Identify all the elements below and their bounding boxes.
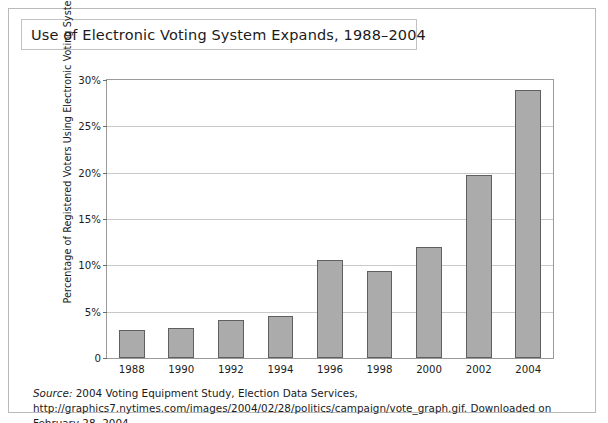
figure-frame: Use of Electronic Voting System Expands,…: [8, 8, 596, 413]
y-tick-label: 5%: [85, 306, 101, 317]
y-tick-mark: [103, 358, 107, 359]
bar-1992: [218, 320, 244, 358]
bar-2004: [515, 90, 541, 358]
source-label: Source:: [33, 387, 72, 399]
source-note: Source: 2004 Voting Equipment Study, Ele…: [33, 386, 589, 423]
gridline: [107, 126, 553, 127]
x-tick-label-1990: 1990: [168, 364, 194, 375]
bar-1996: [317, 260, 343, 358]
y-tick-label: 15%: [78, 214, 101, 225]
y-tick-label: 10%: [78, 260, 101, 271]
y-tick-label: 25%: [78, 121, 101, 132]
gridline: [107, 173, 553, 174]
bar-1998: [367, 271, 393, 358]
page-title: Use of Electronic Voting System Expands,…: [31, 27, 426, 43]
x-tick-label-2000: 2000: [416, 364, 442, 375]
y-tick-mark: [103, 312, 107, 313]
chart-region: Percentage of Registered Voters Using El…: [9, 57, 595, 372]
x-tick-label-1998: 1998: [367, 364, 393, 375]
y-tick-mark: [103, 126, 107, 127]
bar-1990: [168, 328, 194, 358]
y-axis-title: Percentage of Registered Voters Using El…: [62, 34, 73, 304]
x-tick-label-1992: 1992: [218, 364, 244, 375]
plot-area: 05%10%15%20%25%30%1988199019921994199619…: [106, 79, 554, 359]
y-tick-label: 0: [95, 353, 101, 364]
bar-2000: [416, 247, 442, 358]
y-tick-mark: [103, 173, 107, 174]
chart-title-box: Use of Electronic Voting System Expands,…: [21, 19, 417, 50]
x-tick-label-1988: 1988: [119, 364, 145, 375]
x-tick-label-2002: 2002: [466, 364, 492, 375]
source-citation: 2004 Voting Equipment Study, Election Da…: [33, 387, 551, 423]
x-tick-label-1996: 1996: [317, 364, 343, 375]
y-tick-label: 30%: [78, 75, 101, 86]
y-tick-label: 20%: [78, 167, 101, 178]
bar-1988: [119, 330, 145, 358]
y-tick-mark: [103, 80, 107, 81]
bar-1994: [268, 316, 294, 358]
y-tick-mark: [103, 265, 107, 266]
bar-2002: [466, 175, 492, 358]
x-tick-label-1994: 1994: [267, 364, 293, 375]
y-tick-mark: [103, 219, 107, 220]
x-tick-label-2004: 2004: [515, 364, 541, 375]
